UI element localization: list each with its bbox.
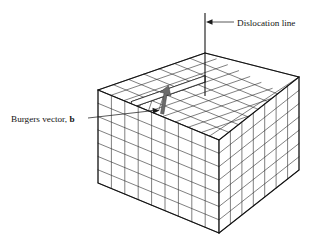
arrow-left-icon [206, 19, 213, 24]
lattice-diagram-svg: Dislocation line Burgers vector, b [0, 0, 314, 244]
burgers-vector-label: Burgers vector, b [11, 114, 75, 124]
burgers-vector-symbol: b [69, 114, 74, 124]
dislocation-line-label: Dislocation line [237, 18, 295, 28]
dislocation-line-annotation: Dislocation line [206, 18, 295, 28]
burgers-vector-label-prefix: Burgers vector, [11, 114, 69, 124]
screw-dislocation-figure: Dislocation line Burgers vector, b [0, 0, 314, 244]
